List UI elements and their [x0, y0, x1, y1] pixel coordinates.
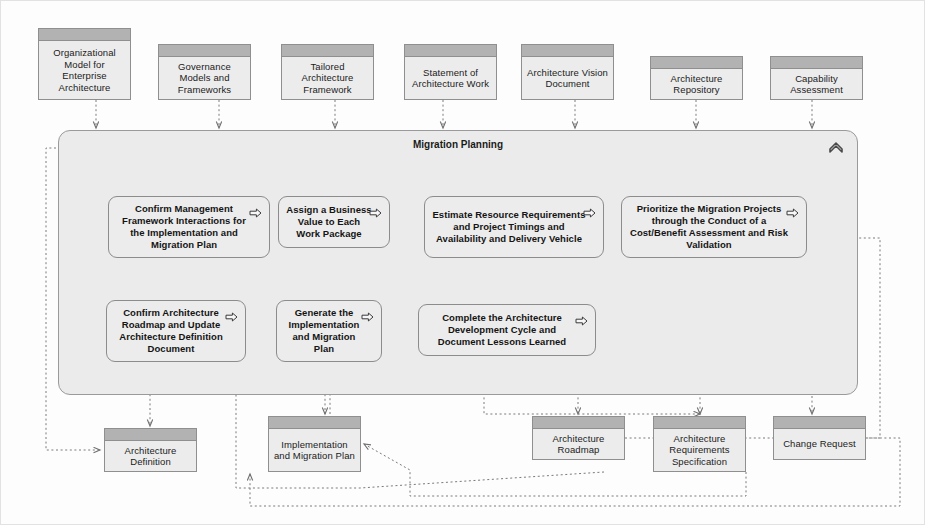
artifact-header-band — [105, 429, 196, 441]
artifact-header-band — [159, 45, 250, 57]
input-artifact[interactable]: Organizational Model for Enterprise Arch… — [38, 28, 131, 100]
artifact-header-band — [651, 57, 742, 69]
artifact-header-band — [39, 29, 130, 41]
process-step-label: Confirm Management Framework Interaction… — [109, 201, 269, 253]
input-artifact[interactable]: Statement of Architecture Work — [404, 44, 497, 100]
process-step[interactable]: Assign a Business Value to Each Work Pac… — [278, 196, 390, 248]
artifact-header-band — [405, 45, 496, 57]
artifact-label: Implementation and Migration Plan — [269, 429, 360, 471]
artifact-header-band — [533, 417, 624, 429]
artifact-header-band — [771, 57, 862, 69]
process-step[interactable]: Prioritize the Migration Projects throug… — [621, 196, 807, 258]
input-artifact[interactable]: Governance Models and Frameworks — [158, 44, 251, 100]
process-step[interactable]: Complete the Architecture Development Cy… — [418, 304, 596, 356]
artifact-label: Architecture Roadmap — [533, 429, 624, 459]
right-arrow-outline-icon[interactable] — [361, 308, 374, 326]
output-artifact[interactable]: Change Request — [773, 416, 866, 460]
artifact-label: Architecture Requirements Specification — [654, 429, 745, 471]
artifact-label: Governance Models and Frameworks — [159, 57, 250, 99]
output-artifact[interactable]: Architecture Roadmap — [532, 416, 625, 460]
artifact-label: Tailored Architecture Framework — [282, 57, 373, 99]
process-step-label: Estimate Resource Requirements and Proje… — [425, 207, 603, 247]
artifact-header-band — [269, 417, 360, 429]
artifact-label: Architecture Definition — [105, 441, 196, 471]
artifact-label: Architecture Vision Document — [522, 57, 613, 99]
right-arrow-outline-icon[interactable] — [786, 204, 799, 222]
artifact-label: Architecture Repository — [651, 69, 742, 99]
input-connectors — [96, 100, 812, 128]
right-arrow-outline-icon[interactable] — [225, 308, 238, 326]
right-arrow-outline-icon[interactable] — [575, 312, 588, 330]
artifact-label: Organizational Model for Enterprise Arch… — [39, 41, 130, 99]
artifact-label: Capability Assessment — [771, 69, 862, 99]
artifact-label: Statement of Architecture Work — [405, 57, 496, 99]
output-artifact[interactable]: Architecture Requirements Specification — [653, 416, 746, 472]
artifact-header-band — [522, 45, 613, 57]
input-artifact[interactable]: Tailored Architecture Framework — [281, 44, 374, 100]
right-arrow-outline-icon[interactable] — [249, 204, 262, 222]
process-step[interactable]: Confirm Architecture Roadmap and Update … — [106, 300, 246, 362]
chevron-up-icon[interactable] — [828, 140, 844, 158]
input-artifact[interactable]: Architecture Repository — [650, 56, 743, 100]
process-step[interactable]: Estimate Resource Requirements and Proje… — [424, 196, 604, 258]
artifact-label: Change Request — [774, 429, 865, 459]
process-step[interactable]: Confirm Management Framework Interaction… — [108, 196, 270, 258]
diagram-canvas: Migration Planning Organizational Model … — [0, 0, 925, 525]
right-arrow-outline-icon[interactable] — [583, 204, 596, 222]
artifact-header-band — [774, 417, 865, 429]
output-artifact[interactable]: Architecture Definition — [104, 428, 197, 472]
right-arrow-outline-icon[interactable] — [369, 204, 382, 222]
process-step[interactable]: Generate the Implementation and Migratio… — [276, 300, 382, 362]
process-step-label: Prioritize the Migration Projects throug… — [622, 201, 806, 253]
artifact-header-band — [282, 45, 373, 57]
artifact-header-band — [654, 417, 745, 429]
input-artifact[interactable]: Capability Assessment — [770, 56, 863, 100]
container-title: Migration Planning — [58, 139, 858, 150]
process-step-label: Complete the Architecture Development Cy… — [419, 310, 595, 350]
input-artifact[interactable]: Architecture Vision Document — [521, 44, 614, 100]
output-artifact[interactable]: Implementation and Migration Plan — [268, 416, 361, 472]
